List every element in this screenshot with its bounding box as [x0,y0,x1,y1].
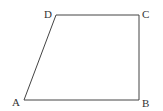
trapezoid-diagram: A B C D [0,0,163,111]
vertex-label-a: A [12,96,20,108]
vertex-label-c: C [142,8,149,20]
trapezoid-abcd [24,15,139,100]
vertex-label-d: D [44,8,52,20]
vertex-label-b: B [142,97,149,109]
